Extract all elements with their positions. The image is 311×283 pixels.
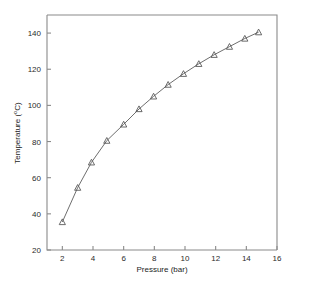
y-tick-label: 100 (28, 101, 42, 110)
y-tick-label: 20 (32, 246, 41, 255)
x-tick-label: 2 (60, 254, 65, 263)
y-tick-label: 80 (32, 138, 41, 147)
y-tick-label: 140 (28, 29, 42, 38)
svg-text:Temperature (oC): Temperature (oC) (12, 102, 22, 164)
x-tick-label: 12 (211, 254, 220, 263)
y-tick-label: 120 (28, 65, 42, 74)
x-tick-label: 14 (242, 254, 251, 263)
y-axis-label-main: Temperature ( (13, 114, 22, 164)
x-tick-label: 16 (273, 254, 282, 263)
chart-figure: 246810121416 20406080100120140 Pressure … (0, 0, 311, 283)
x-tick-label: 10 (181, 254, 190, 263)
y-tick-label: 60 (32, 174, 41, 183)
y-axis-label-tail: C) (13, 102, 22, 111)
temperature-pressure-line-chart: 246810121416 20406080100120140 Pressure … (0, 0, 311, 283)
y-axis-label: Temperature (oC) (12, 102, 22, 164)
x-tick-label: 4 (91, 254, 96, 263)
x-axis-label: Pressure (bar) (136, 265, 187, 274)
y-tick-label: 40 (32, 210, 41, 219)
x-tick-label: 6 (121, 254, 126, 263)
x-tick-label: 8 (152, 254, 157, 263)
